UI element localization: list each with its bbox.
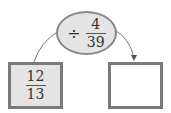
operation-numerator: 4: [91, 17, 100, 32]
input-box: 12 13: [8, 62, 63, 109]
operation-denominator: 39: [87, 35, 105, 50]
output-box[interactable]: [108, 62, 163, 109]
arrowhead-icon: [131, 55, 137, 61]
input-fraction: 12 13: [26, 69, 46, 102]
operation-ellipse: ÷ 4 39: [56, 11, 117, 55]
division-sign: ÷: [67, 24, 80, 43]
input-denominator: 13: [27, 87, 45, 102]
operation-fraction: 4 39: [86, 17, 106, 50]
input-numerator: 12: [27, 69, 45, 84]
